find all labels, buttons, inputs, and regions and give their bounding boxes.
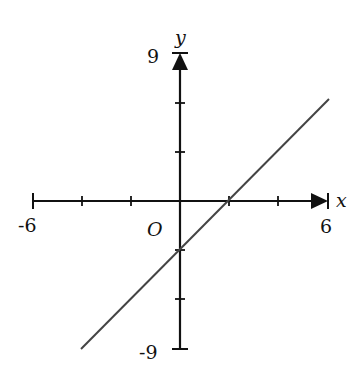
x-axis-arrow-icon [311, 193, 328, 209]
y-axis-arrow-icon [172, 53, 188, 70]
coordinate-plane: 9 y x -6 6 O -9 [0, 0, 361, 379]
plotted-line [81, 99, 329, 349]
x-min-label: -6 [18, 214, 37, 236]
y-max-label: 9 [147, 45, 159, 67]
y-min-label: -9 [139, 341, 158, 363]
x-axis-label: x [336, 189, 347, 211]
origin-label: O [147, 218, 163, 240]
y-axis-label: y [174, 26, 186, 48]
x-max-label: 6 [320, 215, 332, 237]
